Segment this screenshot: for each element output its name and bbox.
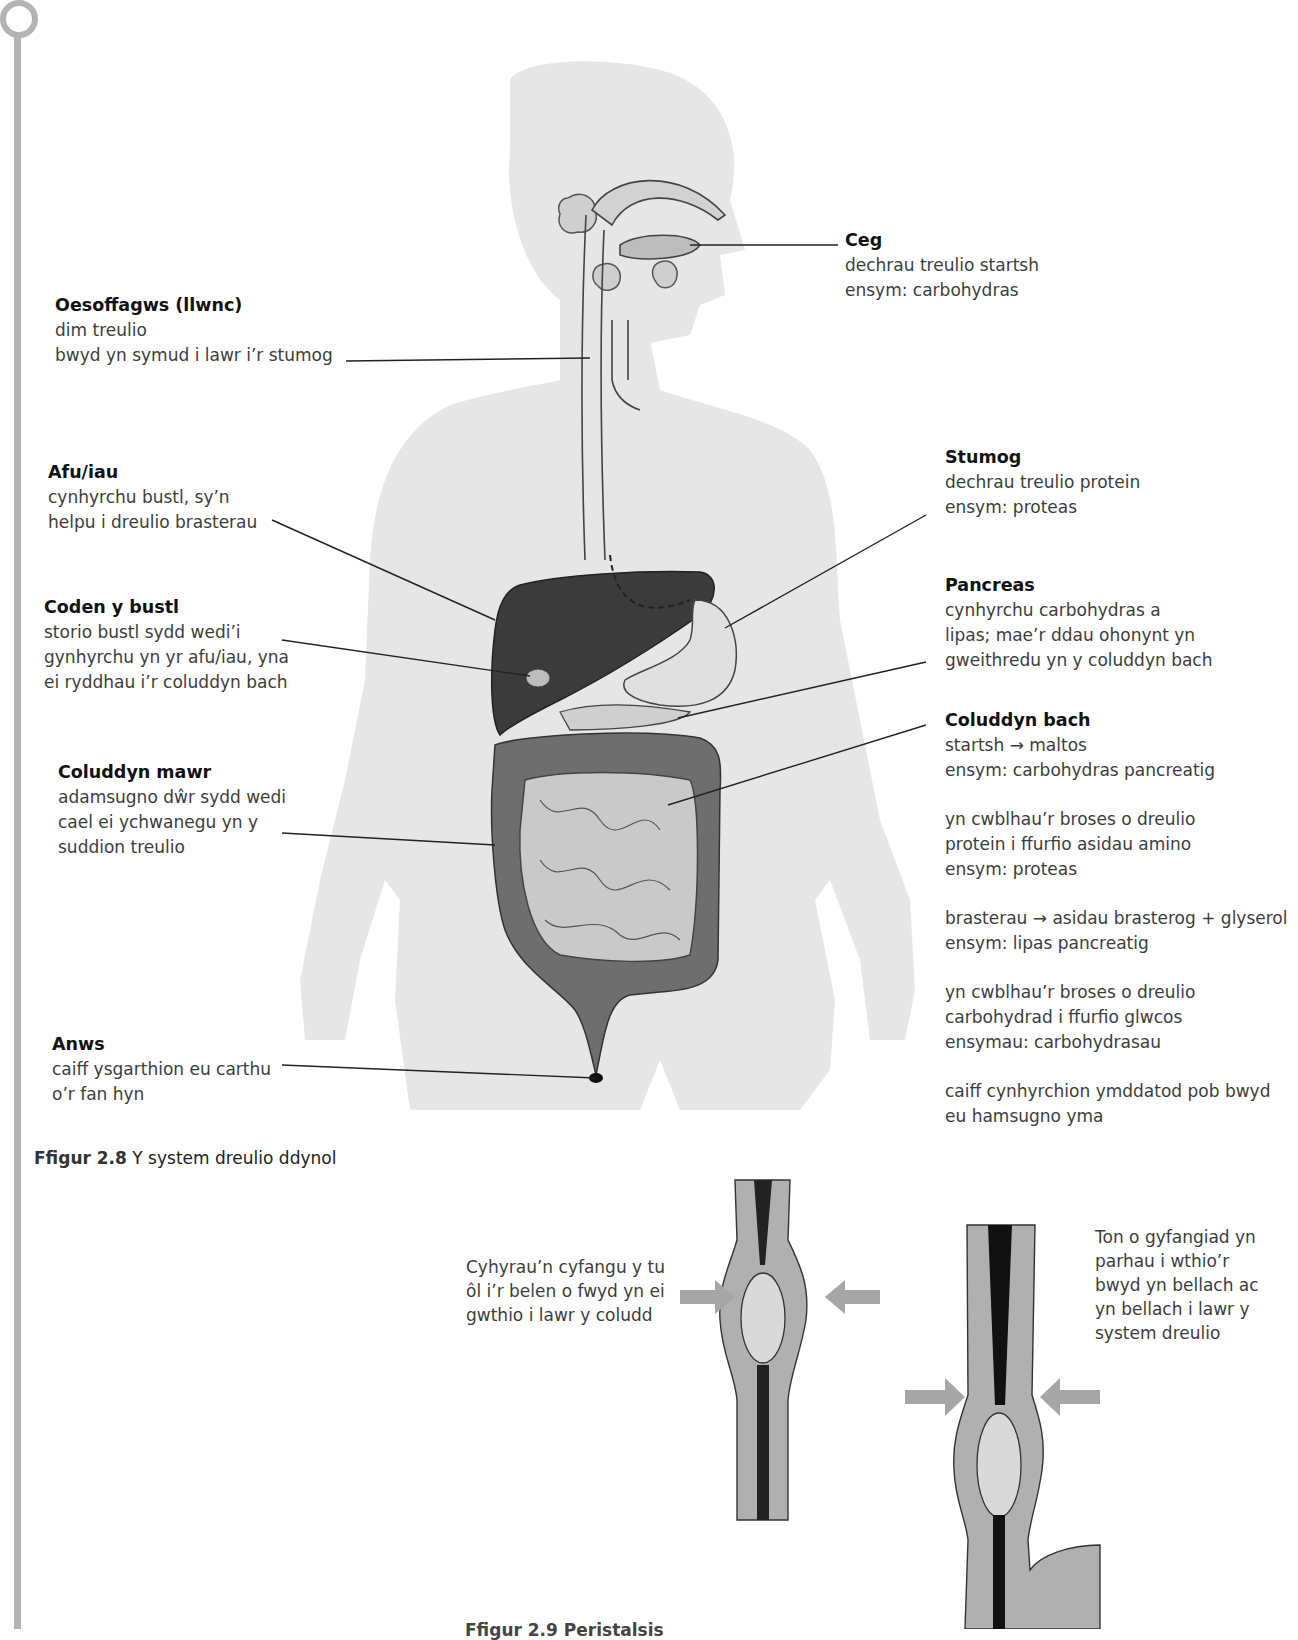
label-anus: Anws caiff ysgarthion eu carthu o’r fan … [52,1032,271,1107]
text-line: Ton o gyfangiad yn [1095,1225,1259,1249]
label-line: yn cwblhau’r broses o dreulio [945,807,1287,832]
label-line: gynhyrchu yn yr afu/iau, yna [44,645,289,670]
label-line: gweithredu yn y coluddyn bach [945,648,1212,673]
label-stomach: Stumog dechrau treulio protein ensym: pr… [945,445,1140,520]
label-line: yn cwblhau’r broses o dreulio [945,980,1287,1005]
label-line: caiff cynhyrchion ymddatod pob bwyd [945,1079,1287,1104]
label-line: helpu i dreulio brasterau [48,510,257,535]
label-line: cynhyrchu bustl, sy’n [48,485,257,510]
label-line: o’r fan hyn [52,1082,271,1107]
label-title: Ceg [845,228,1039,253]
label-line: carbohydrad i ffurfio glwcos [945,1005,1287,1030]
gall-bladder [526,669,550,687]
label-title: Coluddyn bach [945,708,1287,733]
label-line: dim treulio [55,318,333,343]
label-line: ensym: carbohydras pancreatig [945,758,1287,783]
label-line: cael ei ychwanegu yn y [58,810,286,835]
label-line: ensym: carbohydras [845,278,1039,303]
figure-caption-2-8: Ffigur 2.8 Y system dreulio ddynol [34,1148,336,1168]
label-line: bwyd yn symud i lawr i’r stumog [55,343,333,368]
label-title: Coden y bustl [44,595,289,620]
label-line: ei ryddhau i’r coluddyn bach [44,670,289,695]
text-line: yn bellach i lawr y [1095,1297,1259,1321]
label-line: eu hamsugno yma [945,1104,1287,1129]
label-line: ensym: lipas pancreatig [945,931,1287,956]
text-line: bwyd yn bellach ac [1095,1273,1259,1297]
label-line: suddion treulio [58,835,286,860]
text-line: ôl i’r belen o fwyd yn ei [466,1279,665,1303]
label-line: caiff ysgarthion eu carthu [52,1057,271,1082]
label-line: brasterau → asidau brasterog + glyserol [945,906,1287,931]
label-line: dechrau treulio startsh [845,253,1039,278]
label-mouth: Ceg dechrau treulio startsh ensym: carbo… [845,228,1039,303]
label-small-intestine: Coluddyn bach startsh → maltos ensym: ca… [945,708,1287,1129]
figure-number: Ffigur 2.8 [34,1148,127,1168]
label-pancreas: Pancreas cynhyrchu carbohydras a lipas; … [945,573,1212,673]
label-title: Oesoffagws (llwnc) [55,293,333,318]
label-line: ensym: proteas [945,857,1287,882]
label-line: dechrau treulio protein [945,470,1140,495]
peristalsis-left-text: Cyhyrau’n cyfangu y tu ôl i’r belen o fw… [466,1255,665,1327]
text-line: parhau i wthio’r [1095,1249,1259,1273]
text-line: Cyhyrau’n cyfangu y tu [466,1255,665,1279]
label-line: storio bustl sydd wedi’i [44,620,289,645]
label-large-intestine: Coluddyn mawr adamsugno dŵr sydd wedi ca… [58,760,286,860]
label-line: ensymau: carbohydrasau [945,1030,1287,1055]
label-line: adamsugno dŵr sydd wedi [58,785,286,810]
text-line: system dreulio [1095,1321,1259,1345]
label-title: Pancreas [945,573,1212,598]
label-title: Coluddyn mawr [58,760,286,785]
label-line: ensym: proteas [945,495,1140,520]
label-title: Stumog [945,445,1140,470]
label-line: protein i ffurfio asidau amino [945,832,1287,857]
label-liver: Afu/iau cynhyrchu bustl, sy’n helpu i dr… [48,460,257,535]
label-line: cynhyrchu carbohydras a [945,598,1212,623]
label-line: lipas; mae’r ddau ohonynt yn [945,623,1212,648]
label-title: Afu/iau [48,460,257,485]
peristalsis-tube-1 [720,1180,807,1520]
figure-caption-text: Y system dreulio ddynol [132,1148,336,1168]
peristalsis-right-text: Ton o gyfangiad yn parhau i wthio’r bwyd… [1095,1225,1259,1345]
text-line: gwthio i lawr y coludd [466,1303,665,1327]
label-oesophagus: Oesoffagws (llwnc) dim treulio bwyd yn s… [55,293,333,368]
label-title: Anws [52,1032,271,1057]
label-line: startsh → maltos [945,733,1287,758]
label-gall-bladder: Coden y bustl storio bustl sydd wedi’i g… [44,595,289,695]
figure-caption-2-9: Ffigur 2.9 Peristalsis [465,1620,664,1640]
peristalsis-tube-2 [954,1225,1100,1629]
